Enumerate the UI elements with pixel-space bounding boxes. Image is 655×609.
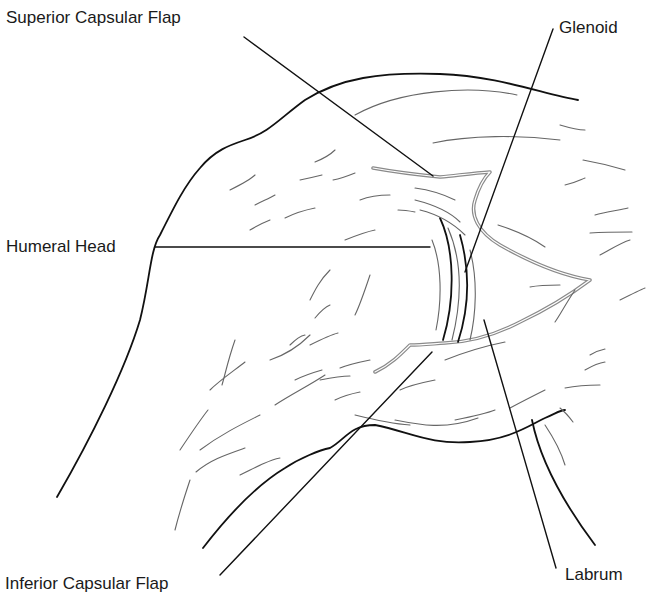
label-glenoid: Glenoid bbox=[559, 19, 618, 36]
anatomy-illustration bbox=[0, 0, 655, 609]
glenoid-rim bbox=[432, 218, 475, 342]
superior-capsular-flap-shape bbox=[373, 168, 590, 372]
hatching bbox=[175, 125, 645, 530]
leader-glenoid bbox=[465, 29, 553, 272]
label-labrum: Labrum bbox=[565, 566, 623, 583]
leader-inferior-capsular-flap bbox=[220, 352, 432, 575]
leader-superior-capsular-flap bbox=[244, 37, 433, 176]
leader-lines bbox=[155, 29, 556, 575]
label-inferior-capsular-flap: Inferior Capsular Flap bbox=[5, 575, 168, 592]
acromion-arc bbox=[355, 90, 517, 115]
label-humeral-head: Humeral Head bbox=[6, 238, 116, 255]
upper-hatch bbox=[433, 137, 560, 143]
leader-labrum bbox=[484, 320, 556, 568]
shoulder-diagram: Superior Capsular Flap Glenoid Humeral H… bbox=[0, 0, 655, 609]
outline-group bbox=[57, 74, 595, 548]
label-superior-capsular-flap: Superior Capsular Flap bbox=[6, 9, 181, 26]
